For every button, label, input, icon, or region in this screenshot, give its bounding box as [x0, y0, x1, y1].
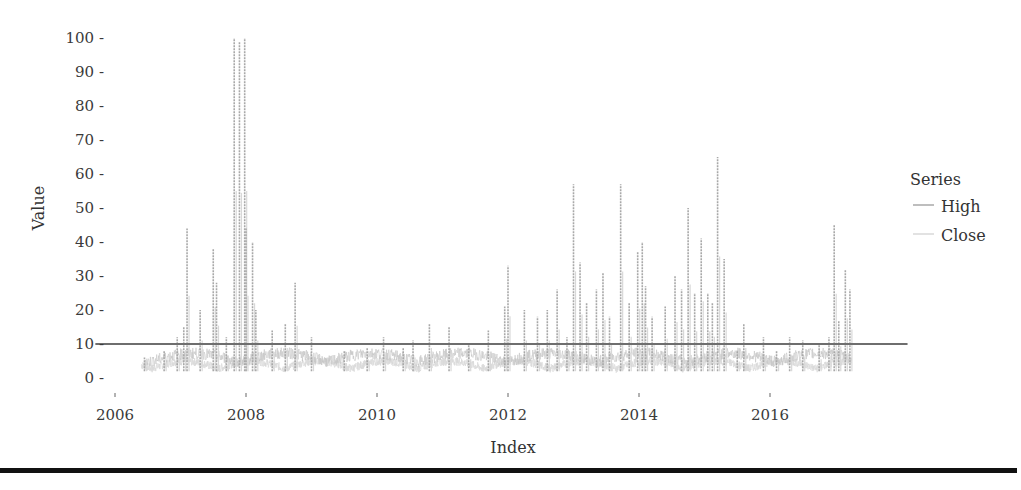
y-tick-label: 70 - [75, 131, 104, 149]
x-tick-label: 2016 [751, 406, 789, 424]
line-chart: 0 -10 -20 -30 -40 -50 -60 -70 -80 -90 -1… [0, 0, 1021, 490]
x-tick-label: 2014 [620, 406, 658, 424]
y-tick-label: 50 - [75, 199, 104, 217]
y-tick-label: 60 - [75, 165, 104, 183]
legend-high-label: High [941, 197, 981, 216]
legend-title: Series [910, 170, 961, 189]
x-axis: 200620082010201220142016 [96, 393, 789, 424]
high-series [144, 38, 851, 371]
y-axis: 0 -10 -20 -30 -40 -50 -60 -70 -80 -90 -1… [66, 29, 104, 387]
legend: Series High Close [910, 170, 986, 245]
y-tick-label: 90 - [75, 63, 104, 81]
x-axis-title: Index [490, 438, 535, 457]
x-tick-label: 2010 [358, 406, 396, 424]
y-tick-label: 10 - [75, 335, 104, 353]
y-tick-label: 100 - [66, 29, 104, 47]
y-axis-title: Value [29, 186, 48, 232]
x-tick-label: 2008 [227, 406, 265, 424]
y-tick-label: 40 - [75, 233, 104, 251]
x-tick-label: 2012 [489, 406, 527, 424]
y-tick-label: 0 - [85, 369, 104, 387]
legend-close-label: Close [941, 226, 986, 245]
bottom-divider [0, 468, 1017, 473]
y-tick-label: 30 - [75, 267, 104, 285]
y-tick-label: 20 - [75, 301, 104, 319]
y-tick-label: 80 - [75, 97, 104, 115]
x-tick-label: 2006 [96, 406, 134, 424]
